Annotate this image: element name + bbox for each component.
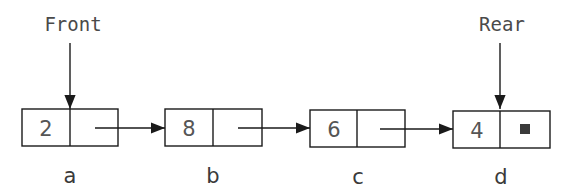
node-label: a xyxy=(64,164,77,188)
rear-label: Rear xyxy=(479,13,525,35)
node-a: 2 a xyxy=(22,109,118,188)
node-value: 4 xyxy=(470,119,483,143)
linked-queue-diagram: Front Rear 2 a 8 b 6 c 4 d xyxy=(0,0,576,196)
null-pointer-icon xyxy=(520,124,530,134)
node-value: 6 xyxy=(327,118,340,142)
node-d: 4 d xyxy=(453,111,550,189)
node-value: 2 xyxy=(39,117,52,141)
node-label: c xyxy=(352,165,364,189)
node-value: 8 xyxy=(182,117,195,141)
node-label: b xyxy=(206,164,219,188)
node-label: d xyxy=(494,165,507,189)
node-box xyxy=(453,111,550,148)
front-pointer: Front xyxy=(44,13,101,109)
node-b: 8 b xyxy=(165,109,262,188)
rear-pointer: Rear xyxy=(479,13,525,109)
front-label: Front xyxy=(44,13,101,35)
node-c: 6 c xyxy=(310,110,405,189)
